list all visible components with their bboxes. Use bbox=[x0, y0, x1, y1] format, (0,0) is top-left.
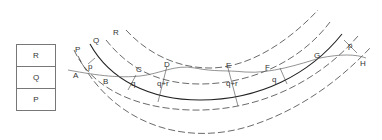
surface-trace-line bbox=[68, 55, 366, 77]
point-h: H bbox=[360, 59, 366, 68]
curve-q-boundary bbox=[90, 34, 342, 100]
point-g: G bbox=[314, 51, 320, 60]
fold-diagram: P Q R A B C D E F G H p q q+r q+r q p bbox=[0, 0, 382, 140]
point-d: D bbox=[164, 60, 170, 69]
point-c: C bbox=[136, 65, 142, 74]
distance-q-left: q bbox=[131, 79, 135, 88]
distance-p-right: p bbox=[348, 41, 353, 50]
distance-qr-right: q+r bbox=[226, 79, 238, 88]
label-curve-p: P bbox=[75, 45, 80, 54]
point-b: B bbox=[103, 77, 108, 86]
curve-q-inner bbox=[106, 22, 330, 84]
point-a: A bbox=[73, 71, 79, 80]
distance-p-left: p bbox=[88, 62, 93, 71]
label-curve-r: R bbox=[113, 28, 119, 37]
point-f: F bbox=[265, 63, 270, 72]
point-e: E bbox=[226, 61, 231, 70]
curve-p-lower-boundary bbox=[78, 48, 370, 133]
distance-qr-left: q+r bbox=[157, 79, 169, 88]
distance-q-right: q bbox=[272, 75, 276, 84]
label-curve-q: Q bbox=[93, 36, 99, 45]
